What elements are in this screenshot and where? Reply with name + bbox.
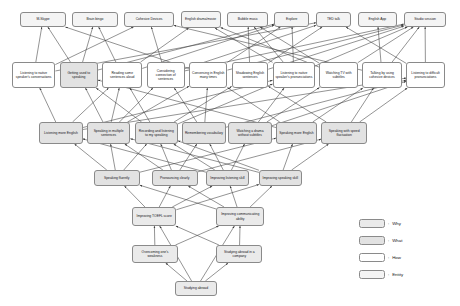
- legend-swatch-how: [359, 253, 385, 262]
- node-j1[interactable]: Pronouncing clearly: [152, 170, 198, 186]
- legend-swatch-entity: [359, 270, 385, 279]
- node-m0[interactable]: Listening to native speaker's conversati…: [12, 62, 55, 88]
- node-n4[interactable]: Bubble music: [227, 12, 268, 27]
- node-m5[interactable]: Shadowing English sentences: [232, 62, 269, 88]
- legend: :Why:What:How:Entity: [359, 218, 455, 286]
- edge: [174, 86, 232, 122]
- edge: [205, 88, 207, 122]
- diagram-canvas: M-SkypeBrain bingoCohesive DevicesEnglis…: [0, 0, 460, 306]
- node-n6[interactable]: TED talk: [316, 12, 351, 27]
- node-n2[interactable]: Cohesive Devices: [124, 12, 173, 27]
- legend-swatch-what: [359, 236, 385, 245]
- node-n8[interactable]: Studio session: [404, 12, 447, 27]
- legend-item-what: :What: [359, 235, 455, 246]
- node-label: M-Skype: [36, 17, 49, 21]
- legend-item-why: :Why: [359, 218, 455, 229]
- edge: [124, 186, 144, 207]
- node-m1[interactable]: Getting used to speaking: [60, 62, 98, 88]
- node-k5[interactable]: Speaking more English: [276, 122, 317, 144]
- legend-label: Entity: [392, 272, 403, 277]
- node-k1[interactable]: Speaking in multiple sentences: [87, 122, 130, 144]
- node-i0[interactable]: Improving TOEFL score: [132, 207, 176, 226]
- node-label: Shadowing English sentences: [234, 71, 266, 79]
- node-label: Improving TOEFL score: [137, 214, 172, 218]
- node-label: Improving speaking skill: [262, 176, 298, 180]
- edge: [151, 27, 161, 62]
- node-label: Improving communicating ability: [219, 212, 262, 220]
- node-label: Listening to native speaker's conversati…: [14, 71, 52, 79]
- node-label: Recording and listening to my speaking: [137, 129, 175, 137]
- node-label: Listening more English: [44, 131, 78, 135]
- edge: [85, 88, 102, 122]
- edge: [178, 84, 273, 124]
- edge: [40, 88, 56, 122]
- edge: [48, 27, 71, 62]
- legend-label: What: [392, 238, 402, 243]
- node-label: Listening to native speaker's pronunciat…: [275, 71, 313, 79]
- node-k6[interactable]: Speaking with speed fluctuation: [321, 122, 367, 144]
- node-m6[interactable]: Listening to native speaker's pronunciat…: [273, 62, 316, 88]
- edge: [272, 81, 407, 125]
- node-label: Improving listening skill: [210, 176, 244, 180]
- node-label: Watching TV with subtitles: [322, 71, 355, 79]
- node-n5[interactable]: Explore: [274, 12, 309, 27]
- legend-item-entity: :Entity: [359, 269, 455, 280]
- node-label: Explore: [286, 17, 297, 21]
- legend-separator: :: [388, 238, 389, 243]
- node-label: TED talk: [327, 17, 340, 21]
- node-label: Speaking more English: [279, 131, 313, 135]
- node-label: Cohesive Devices: [136, 17, 163, 21]
- legend-separator: :: [388, 221, 389, 226]
- edge: [174, 88, 196, 122]
- node-k2[interactable]: Recording and listening to my speaking: [135, 122, 178, 144]
- node-label: Overcoming one's weakness: [135, 250, 176, 258]
- edge: [36, 27, 42, 62]
- node-label: Studio session: [414, 17, 436, 21]
- edge: [248, 27, 249, 62]
- node-label: Conversing in English many times: [192, 71, 225, 79]
- node-j2[interactable]: Improving listening skill: [206, 170, 249, 186]
- node-n3[interactable]: English drama/movie: [181, 11, 221, 28]
- edge: [125, 144, 163, 170]
- node-j0[interactable]: Speaking fluently: [94, 170, 140, 186]
- node-m2[interactable]: Reading some sentences aloud: [102, 62, 142, 88]
- node-label: Speaking in multiple sentences: [89, 129, 127, 137]
- edge: [378, 27, 381, 62]
- edge: [292, 144, 329, 170]
- node-label: Remembering vocabulary: [185, 131, 223, 135]
- node-n1[interactable]: Brain bingo: [72, 12, 117, 27]
- legend-separator: :: [388, 272, 389, 277]
- node-m7[interactable]: Watching TV with subtitles: [319, 62, 357, 88]
- node-label: Getting used to speaking: [62, 71, 95, 79]
- edge: [360, 88, 408, 122]
- legend-item-how: :How: [359, 252, 455, 263]
- edge: [96, 88, 141, 122]
- node-m8[interactable]: Talking by using cohesive devices: [362, 62, 402, 88]
- node-g0[interactable]: Studying abroad: [175, 281, 218, 296]
- node-label: Listening to difficult pronunciations: [409, 71, 442, 79]
- node-k0[interactable]: Listening more English: [39, 122, 82, 144]
- edge: [258, 88, 284, 122]
- node-k3[interactable]: Remembering vocabulary: [182, 122, 225, 144]
- edge: [99, 27, 116, 62]
- node-m4[interactable]: Conversing in English many times: [189, 62, 227, 88]
- legend-swatch-why: [359, 219, 385, 228]
- node-label: Speaking with speed fluctuation: [324, 129, 365, 137]
- node-label: English drama/movie: [185, 17, 216, 21]
- node-j3[interactable]: Improving speaking skill: [259, 170, 302, 186]
- edge: [230, 186, 237, 207]
- node-k4[interactable]: Watching a drama without subtitles: [228, 122, 271, 144]
- node-i1[interactable]: Improving communicating ability: [216, 207, 264, 226]
- node-label: Reading some sentences aloud: [105, 71, 140, 79]
- legend-label: How: [392, 255, 401, 260]
- node-n0[interactable]: M-Skype: [20, 12, 65, 27]
- edge: [346, 27, 406, 63]
- node-n7[interactable]: English App: [358, 12, 397, 27]
- edge: [205, 263, 228, 281]
- node-m9[interactable]: Listening to difficult pronunciations: [406, 62, 444, 88]
- node-label: Bubble music: [238, 17, 258, 21]
- node-h0[interactable]: Overcoming one's weakness: [132, 245, 178, 263]
- legend-label: Why: [392, 221, 401, 226]
- node-h1[interactable]: Studying abroad in a company: [216, 245, 262, 263]
- node-m3[interactable]: Considering connection of sentences: [147, 62, 185, 88]
